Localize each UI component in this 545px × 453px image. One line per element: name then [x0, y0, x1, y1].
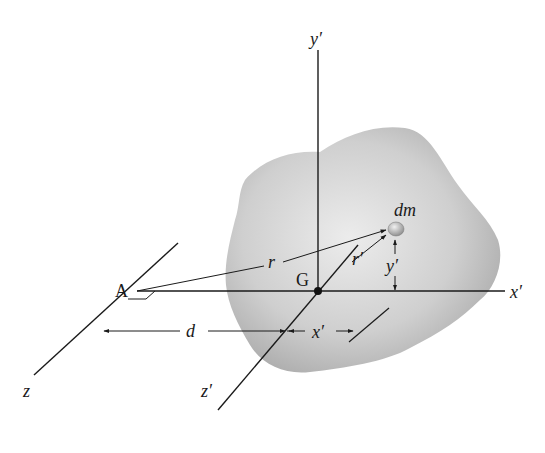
parallel-axis-diagram: y′ x′ z z′ A G r r′ dm d x′ y′: [0, 0, 545, 453]
r-vector-label: r: [268, 252, 276, 272]
right-angle-marker: [128, 291, 155, 299]
point-a-label: A: [115, 281, 128, 301]
r-prime-vector-label: r′: [352, 249, 364, 269]
x-prime-dimension-label: x′: [311, 322, 325, 342]
z-axis: [34, 243, 178, 375]
y-prime-dimension-label: y′: [384, 256, 399, 276]
point-g-label: G: [296, 270, 309, 290]
x-prime-axis-label: x′: [509, 282, 523, 302]
z-axis-label: z: [22, 381, 30, 401]
y-prime-axis-label: y′: [308, 29, 323, 49]
d-dimension-label: d: [186, 321, 196, 341]
dm-label: dm: [394, 200, 416, 220]
centroid-point: [314, 287, 322, 295]
z-prime-axis-label: z′: [200, 381, 213, 401]
dm-element: [388, 222, 404, 236]
